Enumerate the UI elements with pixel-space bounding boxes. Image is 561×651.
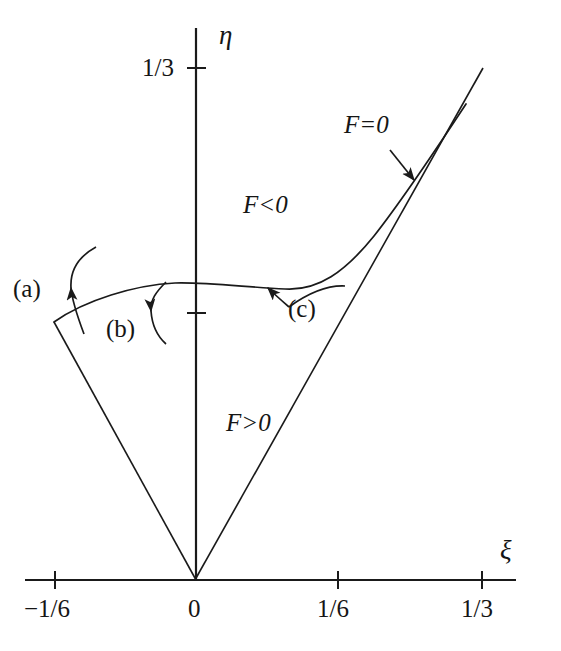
branch-b-arrow-tail xyxy=(151,311,166,344)
x-tick-label-minus-one-sixth: −1/6 xyxy=(24,596,70,621)
curve-label-f-equals-zero: F=0 xyxy=(344,112,389,137)
x-tick-label-zero: 0 xyxy=(188,596,201,621)
y-axis-name: η xyxy=(219,22,232,49)
branch-c-arrow xyxy=(268,288,289,307)
branch-b-arrow xyxy=(151,282,166,311)
region-label-f-negative: F<0 xyxy=(243,192,288,217)
region-label-f-positive: F>0 xyxy=(226,410,271,435)
left-boundary-line xyxy=(54,322,196,579)
branch-label-b: (b) xyxy=(106,316,135,341)
branch-a-arrow-tail xyxy=(71,247,96,288)
plot-canvas xyxy=(0,0,561,651)
x-axis-name: ξ xyxy=(500,537,512,564)
phase-diagram-figure: η ξ 1/3 −1/6 0 1/6 1/3 F=0 F<0 F>0 (a) (… xyxy=(0,0,561,651)
x-tick-label-one-sixth: 1/6 xyxy=(317,596,349,621)
y-tick-label-one-third: 1/3 xyxy=(142,55,174,80)
branch-label-a: (a) xyxy=(13,276,41,301)
x-tick-label-one-third: 1/3 xyxy=(461,596,493,621)
f-equals-zero-arrow xyxy=(390,150,414,180)
branch-label-c: (c) xyxy=(288,296,316,321)
